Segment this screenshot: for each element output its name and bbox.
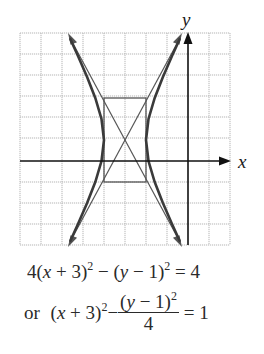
graph-canvas	[0, 0, 264, 250]
eq2-denominator: 4	[118, 313, 179, 333]
hyperbola-figure: y x	[0, 0, 264, 250]
eq2-num-rest: − 1)	[135, 291, 171, 312]
eq2-rhs: = 1	[179, 302, 209, 323]
eq2-num-exp: 2	[171, 289, 177, 303]
eq1-exp2: 2	[164, 259, 170, 273]
eq1-minus: − (	[93, 261, 120, 282]
eq2-fraction: (y − 1)24	[118, 292, 179, 333]
eq2-plus3: + 3)	[65, 302, 101, 323]
eq2-minus: −	[107, 302, 118, 323]
x-axis-label: x	[238, 152, 246, 171]
eq2-numerator: (y − 1)2	[118, 292, 179, 313]
y-axis-arrow-icon	[184, 32, 193, 44]
eq2-var-y: y	[126, 291, 134, 312]
eq2-exp1: 2	[101, 300, 107, 314]
eq1-plus3: + 3)	[51, 261, 87, 282]
eq1-rhs: = 4	[170, 261, 200, 282]
y-axis-label: y	[182, 10, 190, 29]
eq1-var-x: x	[43, 261, 51, 282]
eq1-minus1: − 1)	[128, 261, 164, 282]
eq1-exp1: 2	[87, 259, 93, 273]
x-axis-arrow-icon	[219, 157, 231, 166]
equation-line-2: or (x + 3)2−(y − 1)24 = 1	[24, 294, 209, 335]
eq1-coef: 4(	[27, 261, 43, 282]
equation-line-1: 4(x + 3)2 − (y − 1)2 = 4	[27, 262, 200, 281]
eq2-or: or	[24, 302, 40, 323]
